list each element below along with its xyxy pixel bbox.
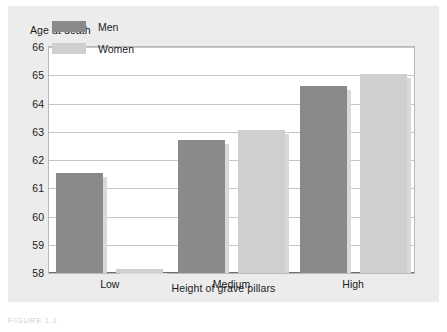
legend-item-men: Men (52, 18, 202, 35)
y-tick-label: 60 (14, 211, 44, 223)
figure-panel: Age at death 666564636261605958 MenWomen… (8, 6, 439, 302)
legend-label: Men (98, 21, 118, 33)
bar-medium-men (178, 140, 225, 273)
y-tick-label: 61 (14, 182, 44, 194)
legend-swatch-men (52, 21, 86, 32)
figure-caption: FIGURE 1.1 (8, 316, 58, 325)
bar-low-women (116, 269, 163, 273)
plot-inner (49, 47, 414, 273)
bar-high-men (300, 86, 347, 273)
y-tick-label: 62 (14, 154, 44, 166)
y-axis-tick-labels: 666564636261605958 (8, 46, 44, 274)
chart-legend: MenWomen (52, 18, 202, 62)
y-tick-label: 63 (14, 126, 44, 138)
y-tick-label: 65 (14, 69, 44, 81)
x-tick-label-low: Low (100, 278, 119, 290)
legend-label: Women (98, 43, 134, 55)
plot-area (48, 46, 415, 274)
bar-low-men (56, 173, 103, 273)
bar-chart: Age at death 666564636261605958 MenWomen… (8, 6, 439, 302)
y-tick-label: 59 (14, 239, 44, 251)
x-tick-label-medium: Medium (213, 278, 250, 290)
legend-swatch-women (52, 43, 86, 54)
x-tick-label-high: High (342, 278, 364, 290)
y-tick-label: 66 (14, 41, 44, 53)
y-tick-label: 64 (14, 98, 44, 110)
y-tick-label: 58 (14, 267, 44, 279)
bar-medium-women (238, 130, 285, 273)
bar-high-women (360, 74, 407, 273)
legend-item-women: Women (52, 40, 202, 57)
